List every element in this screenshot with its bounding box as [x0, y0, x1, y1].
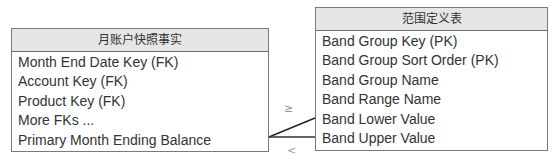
field-band-range-name: Band Range Name [322, 90, 547, 109]
field-product-key: Product Key (FK) [18, 92, 268, 111]
field-primary-month-ending-balance: Primary Month Ending Balance [18, 131, 268, 150]
greater-equal-symbol: ≥ [284, 102, 293, 115]
field-band-group-key: Band Group Key (PK) [322, 32, 547, 51]
fact-table-fields: Month End Date Key (FK) Account Key (FK)… [12, 52, 268, 150]
field-band-lower-value: Band Lower Value [322, 110, 547, 129]
join-line-lower-value [269, 118, 315, 137]
field-band-group-sort-order: Band Group Sort Order (PK) [322, 51, 547, 70]
less-than-symbol: < [287, 144, 296, 157]
band-table-title: 范围定义表 [316, 8, 547, 31]
fact-table-entity: 月账户快照事实 Month End Date Key (FK) Account … [11, 28, 269, 152]
field-account-key: Account Key (FK) [18, 72, 268, 91]
field-more-fks: More FKs ... [18, 111, 268, 130]
field-band-group-name: Band Group Name [322, 71, 547, 90]
field-band-upper-value: Band Upper Value [322, 129, 547, 148]
field-month-end-date-key: Month End Date Key (FK) [18, 53, 268, 72]
band-definition-table-entity: 范围定义表 Band Group Key (PK) Band Group Sor… [315, 7, 548, 151]
fact-table-title: 月账户快照事实 [12, 29, 268, 52]
band-table-fields: Band Group Key (PK) Band Group Sort Orde… [316, 31, 547, 148]
